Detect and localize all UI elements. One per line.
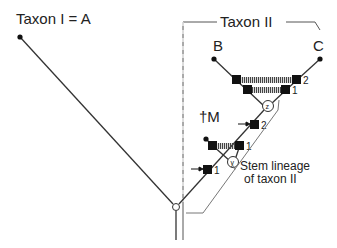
- terminal-m-dot: [203, 136, 208, 141]
- hatch-bar-upper-2: [240, 77, 293, 83]
- cladogram: Taxon I = A Taxon II B C †M: [0, 0, 337, 248]
- svg-text:z: z: [266, 103, 270, 110]
- taxon-2-bracket: [183, 22, 320, 240]
- hatch-bar-lower-1: [216, 143, 236, 149]
- hatch-bar-upper-1: [251, 87, 282, 93]
- apo-number-stem-1: 1: [214, 165, 220, 176]
- stem-lineage-label-line1: Stem lineage: [240, 159, 310, 173]
- taxon-b-label: B: [213, 37, 223, 54]
- terminal-c-dot: [317, 56, 322, 61]
- taxon-1-label: Taxon I = A: [16, 10, 91, 27]
- terminal-b-dot: [211, 56, 216, 61]
- root-node: [173, 204, 180, 211]
- apo-number-upper-1: 1: [292, 85, 298, 96]
- apo-number-upper-2: 2: [303, 75, 309, 86]
- tree-branches: [20, 37, 320, 240]
- taxon-m-label: †M: [199, 108, 220, 125]
- taxon-c-label: C: [313, 37, 324, 54]
- stem-lineage-label-line2: of taxon II: [244, 172, 297, 186]
- terminal-a-dot: [17, 34, 22, 39]
- taxon-2-label: Taxon II: [220, 13, 273, 30]
